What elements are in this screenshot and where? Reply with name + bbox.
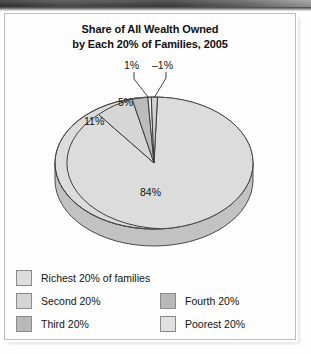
- chart-page: Share of All Wealth Owned by Each 20% of…: [0, 0, 311, 354]
- legend-swatch-poorest: [160, 316, 176, 332]
- callout-label-1pct: 1%: [124, 59, 139, 71]
- legend-swatch-third: [16, 316, 32, 332]
- callout-label-84pct: 84%: [140, 186, 161, 198]
- legend-label-third: Third 20%: [41, 318, 89, 330]
- legend-item-poorest: Poorest 20%: [160, 313, 245, 334]
- legend-item-second: Second 20%: [16, 290, 101, 311]
- leader-line-minus1pct: [155, 72, 167, 97]
- callout-label-5pct: 5%: [118, 96, 133, 108]
- legend-label-second: Second 20%: [41, 295, 101, 307]
- legend-swatch-second: [16, 293, 32, 309]
- legend-label-poorest: Poorest 20%: [185, 318, 245, 330]
- callout-label-minus1pct: –1%: [152, 59, 173, 71]
- chart-legend: Richest 20% of families Second 20% Third…: [14, 267, 286, 333]
- legend-swatch-richest: [16, 270, 32, 286]
- legend-item-third: Third 20%: [16, 313, 89, 334]
- legend-item-fourth: Fourth 20%: [160, 290, 239, 311]
- legend-swatch-fourth: [160, 293, 176, 309]
- legend-label-richest: Richest 20% of families: [41, 272, 150, 284]
- leader-line-1pct: [134, 72, 149, 98]
- callout-leader-lines: [134, 72, 166, 98]
- callout-label-11pct: 11%: [84, 115, 104, 127]
- legend-label-fourth: Fourth 20%: [185, 295, 239, 307]
- legend-item-richest: Richest 20% of families: [16, 267, 150, 288]
